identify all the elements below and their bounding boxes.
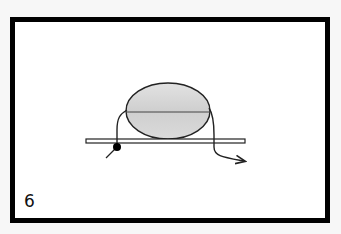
right-strand-arrow (209, 108, 244, 161)
horizontal-bar (86, 139, 245, 143)
knot-illustration (0, 0, 341, 234)
knot-dot (113, 143, 121, 151)
oval-object (126, 83, 210, 139)
